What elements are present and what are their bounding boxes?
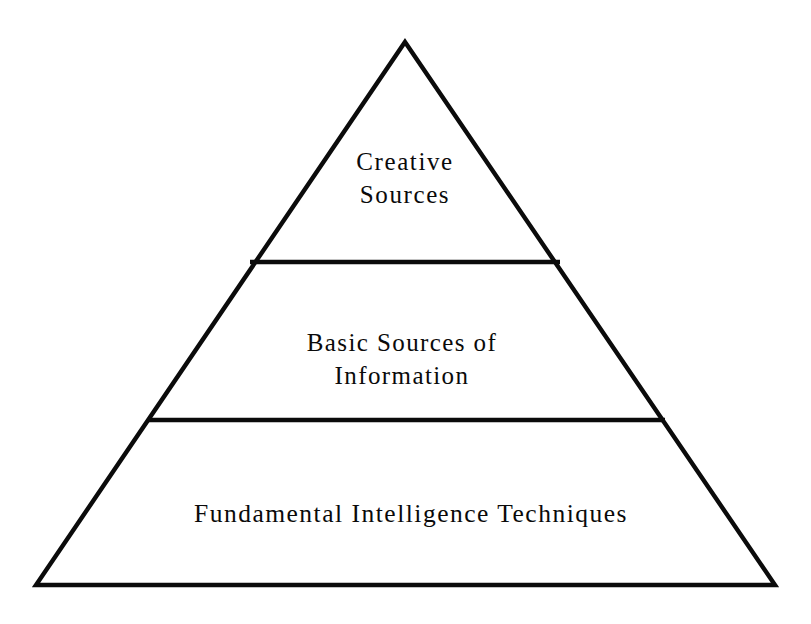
- pyramid-diagram: Creative Sources Basic Sources of Inform…: [0, 0, 811, 624]
- pyramid-tier-label-middle: Basic Sources of Information: [152, 327, 652, 392]
- pyramid-tier-label-top: Creative Sources: [205, 146, 605, 211]
- pyramid-tier-label-base: Fundamental Intelligence Techniques: [61, 497, 761, 530]
- pyramid-outline-graphic: [0, 0, 811, 624]
